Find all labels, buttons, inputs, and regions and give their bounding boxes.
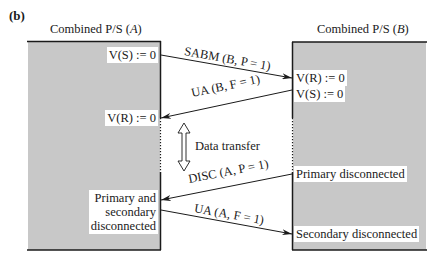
station-b-state-vs: V(S) := 0 — [294, 86, 345, 102]
state-line: secondary — [91, 205, 156, 219]
data-transfer-label: Data transfer — [195, 139, 260, 154]
double-arrow-vertical-icon — [178, 123, 190, 171]
state-line: disconnected — [91, 219, 156, 233]
station-a-state-disconnected: Primary and secondary disconnected — [89, 190, 158, 234]
station-b-state-primary-disconnected: Primary disconnected — [294, 166, 407, 182]
station-a-state-vr: V(R) := 0 — [105, 110, 158, 126]
station-b-state-vr: V(R) := 0 — [294, 70, 347, 86]
station-b-state-secondary-disconnected: Secondary disconnected — [294, 226, 419, 242]
state-line: Primary and — [91, 191, 156, 205]
station-a-state-vs: V(S) := 0 — [107, 47, 158, 63]
